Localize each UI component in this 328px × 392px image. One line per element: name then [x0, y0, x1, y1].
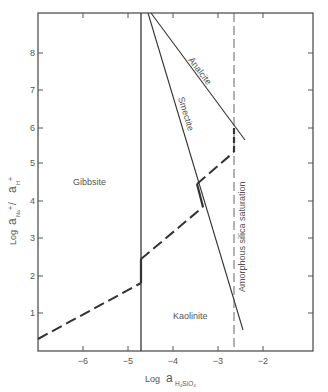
y-axis-label-symbol-1: a	[5, 218, 19, 225]
x-axis-label: Log a H₄SiO₄	[145, 371, 196, 387]
boundary-label-analcite: Analcite	[186, 55, 213, 87]
y-tick-label: 2	[30, 271, 35, 281]
x-ticks-bottom	[83, 346, 263, 351]
y-tick-labels: 1 2 3 4 5 6 7 8	[30, 48, 35, 318]
field-label-gibbsite: Gibbsite	[73, 177, 106, 187]
field-label-kaolinite: Kaolinite	[173, 311, 208, 321]
stability-diagram: −6 −5 −4 −3 −2 1 2 3 4 5 6 7 8 Log a H₄S…	[0, 0, 328, 392]
x-axis-label-symbol: a	[166, 371, 173, 385]
y-tick-label: 1	[30, 308, 35, 318]
y-axis-label-sep: /	[7, 202, 18, 205]
x-tick-label: −6	[78, 356, 88, 366]
y-tick-label: 6	[30, 123, 35, 133]
x-tick-label: −4	[168, 356, 178, 366]
x-axis-label-subscript: H₄SiO₄	[175, 380, 196, 387]
y-ticks-left	[38, 53, 43, 313]
x-axis-label-prefix: Log	[145, 374, 160, 384]
y-ticks-right	[308, 53, 313, 313]
y-axis-label-sub-2: H	[15, 181, 21, 185]
y-axis-label-sup-1: +	[7, 206, 14, 210]
y-tick-label: 7	[30, 85, 35, 95]
y-axis-label-symbol-2: a	[5, 186, 19, 193]
y-tick-label: 5	[30, 158, 35, 168]
boundary-label-smectite: Smectite	[176, 96, 196, 132]
x-ticks-top	[83, 13, 263, 18]
y-tick-label: 4	[30, 196, 35, 206]
boundary-label-amorphous-silica: Amorphous silica saturation	[237, 181, 247, 292]
y-axis-label-sub-1: Na	[15, 209, 21, 217]
x-tick-label: −2	[258, 356, 268, 366]
y-tick-label: 3	[30, 233, 35, 243]
x-tick-labels: −6 −5 −4 −3 −2	[78, 356, 268, 366]
y-axis-label-sup-2: +	[7, 177, 14, 181]
x-tick-label: −5	[123, 356, 133, 366]
y-axis-label-prefix: Log	[8, 230, 18, 245]
reaction-path	[38, 128, 234, 339]
y-tick-label: 8	[30, 48, 35, 58]
x-tick-label: −3	[213, 356, 223, 366]
y-axis-label: Log a Na + / a H +	[5, 177, 21, 245]
